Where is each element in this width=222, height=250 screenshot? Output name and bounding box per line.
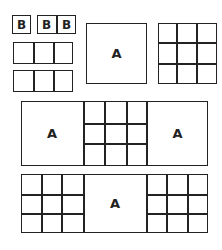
grid-line [158,63,217,65]
grid-line [21,194,83,196]
empty-row-2 [13,70,73,92]
grid-line [126,101,128,166]
grid-line [146,194,208,196]
grid-line [176,23,178,84]
a-label: A [86,23,147,84]
grid-line [21,213,83,215]
a-label: A [84,174,146,233]
row-2-divider [33,70,35,92]
grid-line [61,174,63,233]
strip-divider [146,174,148,233]
grid-line [187,174,189,233]
grid-line [166,174,168,233]
grid-line [158,42,217,44]
grid-line [104,101,106,166]
grid-line [146,213,208,215]
grid-line [41,174,43,233]
b-label: B [57,15,76,34]
a-label: A [21,101,83,166]
grid-line [196,23,198,84]
b-label: B [12,15,31,34]
grid-line [83,143,147,145]
grid-3x3-top [158,23,217,84]
grid-line [83,123,147,125]
row-1-divider [53,42,55,64]
strip-divider [83,101,85,166]
a-label: A [147,101,208,166]
row-1-divider [33,42,35,64]
empty-row-1 [13,42,73,64]
b-label: B [37,15,56,34]
row-2-divider [53,70,55,92]
